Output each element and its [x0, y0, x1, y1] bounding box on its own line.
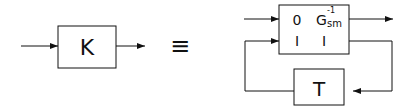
matrix-g-subscript: sm: [327, 18, 342, 29]
matrix-g-superscript: -1: [327, 6, 335, 15]
feedback-system: 0 G sm -1 I I T: [244, 5, 393, 105]
t-label: T: [312, 77, 326, 101]
matrix-i-right: I: [322, 33, 326, 49]
k-system: K: [21, 26, 145, 68]
matrix-i-left: I: [295, 33, 299, 49]
feedback-right-path: [349, 41, 392, 91]
k-label: K: [80, 35, 95, 60]
matrix-0: 0: [293, 12, 302, 28]
feedback-left-path: [245, 41, 294, 91]
block-diagram: K ≡ 0 G sm -1 I I T: [0, 0, 413, 110]
matrix-g: G: [316, 12, 327, 28]
equivalence-symbol: ≡: [170, 32, 190, 60]
main-block: [279, 5, 349, 54]
